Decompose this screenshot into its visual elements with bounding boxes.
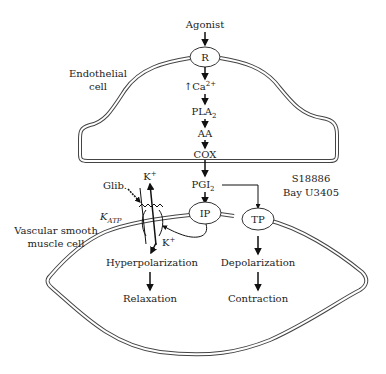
k-ion-in: K+ — [162, 236, 175, 248]
glib-label: Glib. — [103, 180, 127, 191]
agonist-label: Agonist — [185, 19, 224, 30]
contraction-label: Contraction — [228, 293, 289, 304]
arrow-pgi2-to-tp — [222, 185, 258, 208]
arrow-k-efflux — [150, 184, 156, 245]
pla2-label: PLA2 — [191, 106, 216, 120]
tp-receptor-label: TP — [251, 214, 265, 225]
endothelial-cell-label: Endothelial — [69, 68, 127, 79]
pgi2-label: PGI2 — [191, 179, 214, 193]
k-ion-out: K+ — [143, 170, 156, 182]
relaxation-label: Relaxation — [123, 293, 177, 304]
depolarization-label: Depolarization — [221, 257, 296, 268]
endothelial-cell-label-2: cell — [89, 81, 107, 92]
pgi2-signaling-diagram: Endothelial cell Vascular smooth muscle … — [0, 0, 386, 374]
receptor-r-label: R — [201, 52, 209, 63]
antagonist-s18886: S18886 — [292, 173, 331, 184]
antagonist-bay-u3405: Bay U3405 — [283, 187, 339, 198]
aa-label: AA — [197, 128, 213, 139]
arrow-k-to-hyperpol — [151, 243, 156, 253]
ip-receptor-label: IP — [200, 208, 211, 219]
vsm-cell-label-2: muscle cell — [28, 238, 85, 249]
increase-arrow-icon: ↑ — [184, 81, 192, 92]
vsm-cell-label: Vascular smooth — [13, 225, 98, 236]
arrow-glib-to-channel — [128, 189, 140, 202]
katp-label: KATP — [99, 211, 122, 225]
glibenclamide-binding-icon — [139, 204, 163, 207]
hyperpolarization-label: Hyperpolarization — [106, 257, 198, 268]
katp-channel — [139, 184, 163, 245]
cox-label: COX — [194, 149, 218, 160]
calcium-label: ↑Ca2+ — [184, 80, 216, 92]
